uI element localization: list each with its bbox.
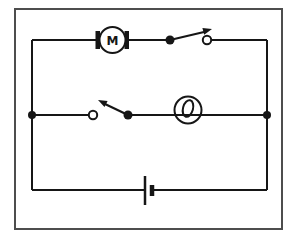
top-switch-pivot-dot (166, 36, 175, 45)
top-switch (166, 28, 213, 45)
middle-switch-pivot-dot (124, 111, 133, 120)
middle-switch-arrowhead (98, 100, 108, 107)
junction-dot-right (263, 111, 271, 119)
battery-cell (145, 176, 152, 205)
middle-switch-open-terminal (89, 111, 97, 119)
motor-symbol: M (96, 27, 130, 53)
motor-label: M (107, 34, 119, 48)
circuit-figure: M (0, 0, 294, 239)
lamp-symbol (175, 97, 202, 124)
top-switch-lever (170, 32, 204, 40)
diagram-frame (15, 9, 282, 229)
circuit-wires (32, 40, 267, 190)
top-switch-arrowhead (202, 28, 212, 35)
top-switch-open-terminal (203, 36, 211, 44)
circuit-diagram: M (0, 0, 294, 239)
junction-dot-left (28, 111, 36, 119)
middle-switch (89, 100, 133, 120)
